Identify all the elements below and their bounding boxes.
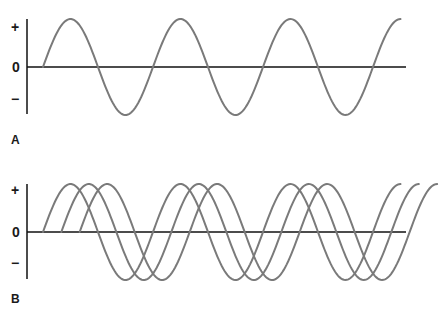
panel-b-plus-label: + [11, 182, 19, 198]
panel-a: + 0 − A [11, 19, 406, 147]
panel-a-label: A [11, 133, 20, 147]
panel-b-label: B [11, 292, 20, 306]
figure-canvas: + 0 − A + 0 − B [0, 0, 447, 313]
panel-a-minus-label: − [11, 91, 19, 107]
panel-b: + 0 − B [11, 182, 437, 306]
panel-a-zero-label: 0 [12, 59, 20, 75]
panel-b-minus-label: − [11, 255, 19, 271]
panel-b-zero-label: 0 [12, 224, 20, 240]
panel-a-plus-label: + [11, 19, 19, 35]
